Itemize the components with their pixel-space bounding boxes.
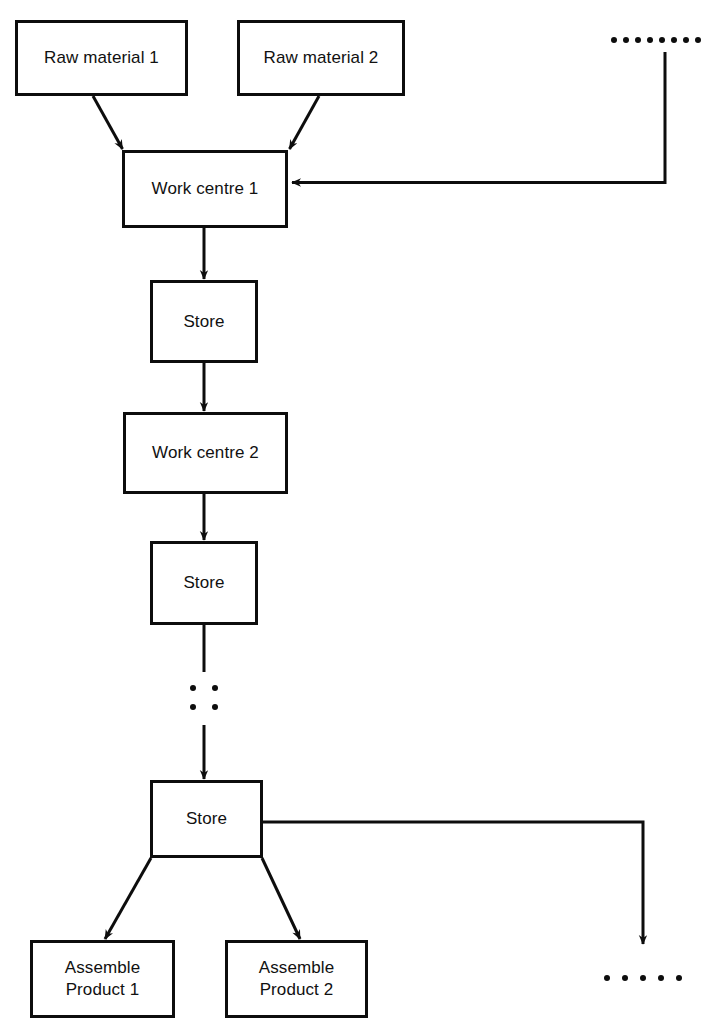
node-assemble-product-1[interactable]: Assemble Product 1	[30, 940, 175, 1018]
process-flow-diagram: Raw material 1 Raw material 2 Work centr…	[0, 0, 713, 1033]
diagram-edges-layer	[0, 0, 713, 1033]
node-raw-material-1[interactable]: Raw material 1	[15, 20, 188, 96]
edge-store-3-to-assemble-product-1	[105, 858, 151, 939]
dot-icon	[659, 37, 665, 43]
continuation-dots-bottom-right-icon	[604, 975, 694, 981]
node-store-3[interactable]: Store	[150, 780, 263, 858]
node-assemble-product-1-label: Assemble Product 1	[65, 957, 140, 1001]
dot-icon	[676, 975, 682, 981]
edge-raw-material-1-to-work-centre-1	[93, 96, 123, 149]
node-raw-material-2[interactable]: Raw material 2	[237, 20, 405, 96]
dot-icon	[212, 685, 218, 691]
node-assemble-product-2[interactable]: Assemble Product 2	[225, 940, 368, 1018]
edge-raw-material-2-to-work-centre-1	[290, 96, 320, 149]
node-raw-material-2-label: Raw material 2	[264, 47, 379, 69]
dot-icon	[190, 685, 196, 691]
dot-icon	[647, 37, 653, 43]
node-store-3-label: Store	[186, 808, 227, 830]
node-raw-material-1-label: Raw material 1	[44, 47, 159, 69]
continuation-dots-mid-icon	[190, 685, 218, 710]
edge-store-3-to-continuation-bottom	[263, 822, 643, 944]
node-store-2[interactable]: Store	[150, 541, 258, 625]
edge-store-3-to-assemble-product-2	[262, 858, 300, 939]
dot-icon	[604, 975, 610, 981]
dot-icon	[212, 704, 218, 710]
dot-icon	[190, 704, 196, 710]
dot-icon	[671, 37, 677, 43]
node-work-centre-1[interactable]: Work centre 1	[122, 150, 288, 228]
dot-icon	[622, 975, 628, 981]
node-store-1-label: Store	[183, 311, 224, 333]
dot-icon	[683, 37, 689, 43]
node-store-2-label: Store	[183, 572, 224, 594]
dot-icon	[695, 37, 701, 43]
dot-icon	[611, 37, 617, 43]
node-work-centre-2-label: Work centre 2	[152, 442, 259, 464]
dot-icon	[640, 975, 646, 981]
node-work-centre-1-label: Work centre 1	[152, 178, 259, 200]
node-store-1[interactable]: Store	[150, 280, 258, 363]
continuation-dots-top-icon	[611, 37, 707, 43]
node-assemble-product-2-label: Assemble Product 2	[259, 957, 334, 1001]
dot-icon	[635, 37, 641, 43]
dot-icon	[658, 975, 664, 981]
dot-icon	[623, 37, 629, 43]
node-work-centre-2[interactable]: Work centre 2	[123, 412, 288, 494]
